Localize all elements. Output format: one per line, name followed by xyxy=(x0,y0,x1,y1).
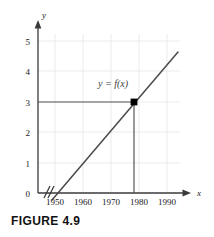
y-tick-label-5: 5 xyxy=(26,37,31,47)
x-axis-arrowhead xyxy=(183,190,192,197)
data-point-marker xyxy=(131,99,138,106)
y-tick-labels: 5 4 3 2 1 0 xyxy=(26,37,31,199)
function-line xyxy=(52,52,178,200)
y-tick-label-4: 4 xyxy=(26,67,31,77)
figure-container: 5 4 3 2 1 0 1950 1960 1970 1980 1990 y x… xyxy=(0,0,214,237)
y-tick-label-2: 2 xyxy=(26,128,31,138)
function-label: y = f(x) xyxy=(97,78,129,90)
y-tick-label-0: 0 xyxy=(26,189,31,199)
x-tick-label-1980: 1980 xyxy=(130,197,149,207)
x-tick-label-1960: 1960 xyxy=(74,197,93,207)
y-tick-label-3: 3 xyxy=(26,98,31,108)
x-tick-label-1970: 1970 xyxy=(102,197,121,207)
x-axis-label: x xyxy=(196,188,201,198)
y-tick-label-1: 1 xyxy=(26,159,31,169)
figure-caption: FIGURE 4.9 xyxy=(11,214,80,228)
x-tick-label-1950: 1950 xyxy=(46,197,65,207)
y-axis-arrowhead xyxy=(35,20,42,29)
x-tick-labels: 1950 1960 1970 1980 1990 xyxy=(46,197,177,207)
grid-vertical xyxy=(55,34,167,193)
x-tick-label-1990: 1990 xyxy=(158,197,177,207)
chart-canvas: 5 4 3 2 1 0 1950 1960 1970 1980 1990 y x… xyxy=(0,0,214,214)
y-axis-label: y xyxy=(41,10,46,20)
